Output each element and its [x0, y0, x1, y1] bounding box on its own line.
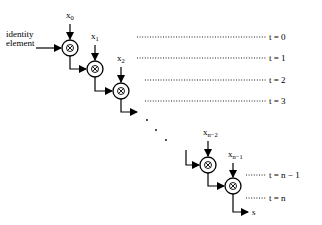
operator-node-n-1 — [225, 163, 248, 212]
time-label-2: t = 2 — [269, 76, 286, 85]
time-label-n-1: t = n − 1 — [269, 171, 300, 180]
identity-label-line2: element — [6, 39, 35, 48]
operator-node-n-2 — [186, 141, 224, 186]
time-label-1: t = 1 — [269, 54, 286, 63]
input-label-x1: x1 — [91, 32, 99, 41]
time-label-0: t = 0 — [269, 33, 286, 42]
ellipsis-dots — [146, 119, 167, 141]
input-label-xn-2: xn−2 — [203, 128, 218, 137]
input-label-xn-1: xn−1 — [228, 150, 243, 159]
time-label-n: t = n — [269, 194, 286, 203]
operator-node-0 — [62, 24, 86, 69]
time-guides — [137, 37, 266, 198]
time-label-3: t = 3 — [269, 97, 286, 106]
input-label-x2: x2 — [117, 54, 125, 63]
input-label-x0: x0 — [66, 11, 74, 20]
output-label: s — [252, 208, 256, 217]
operator-node-2 — [113, 67, 137, 112]
operator-node-1 — [87, 45, 112, 91]
